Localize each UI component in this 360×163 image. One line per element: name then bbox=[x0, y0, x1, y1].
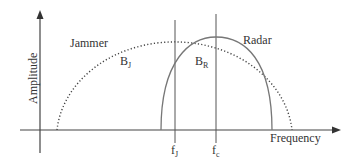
jammer-label: Jammer bbox=[70, 36, 108, 51]
fj-label: fJ bbox=[171, 143, 178, 159]
x-axis-arrow-icon bbox=[332, 127, 341, 134]
radar-bandwidth-label: BR bbox=[195, 54, 208, 70]
fc-sub: c bbox=[216, 150, 220, 159]
y-axis-arrow-icon bbox=[37, 10, 44, 19]
fc-label: fc bbox=[212, 143, 220, 159]
y-axis-label: Amplitude bbox=[26, 53, 41, 104]
x-axis-label: Frequency bbox=[270, 131, 321, 146]
spectrum-diagram: Amplitude Jammer BJ BR Radar Frequency f… bbox=[0, 0, 360, 163]
jammer-bandwidth-label: BJ bbox=[120, 54, 131, 70]
radar-label: Radar bbox=[243, 33, 272, 48]
br-main: B bbox=[195, 54, 203, 68]
bj-sub: J bbox=[128, 61, 131, 70]
fj-sub: J bbox=[175, 150, 178, 159]
bj-main: B bbox=[120, 54, 128, 68]
br-sub: R bbox=[203, 61, 208, 70]
